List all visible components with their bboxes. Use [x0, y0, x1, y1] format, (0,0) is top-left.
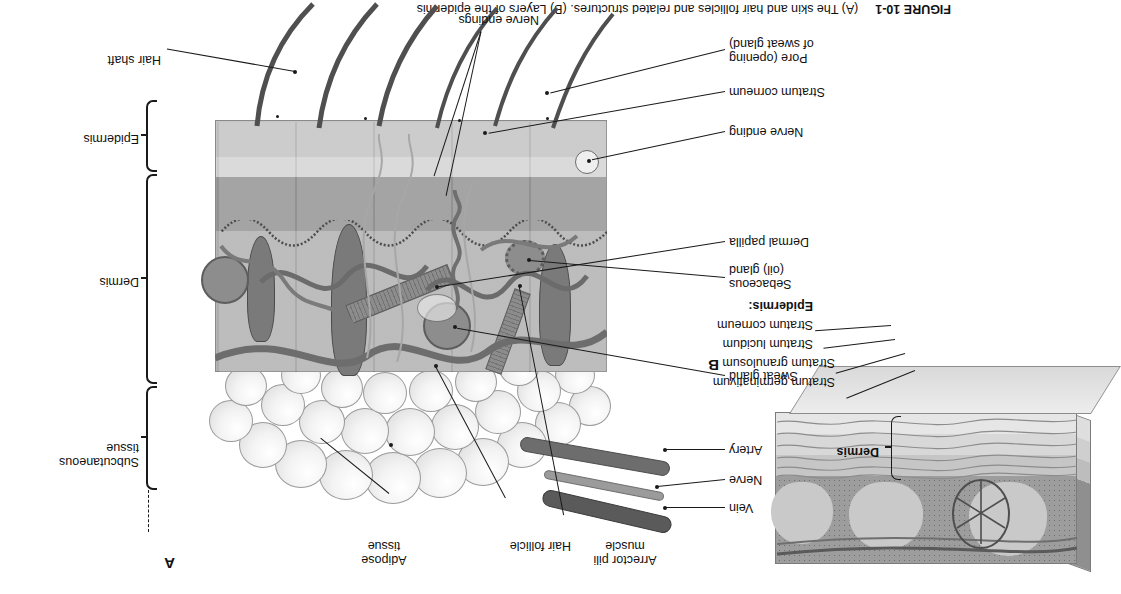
- bracket-dermis-b: [891, 416, 901, 480]
- epidermis-cube-bottom-face: [789, 366, 1121, 414]
- leader-nerve-ending: [592, 131, 725, 160]
- panel-b-letter: B: [708, 357, 719, 374]
- nerve-fibres: [217, 132, 517, 362]
- label-epidermis-heading: Epidermis:: [748, 299, 813, 313]
- leader-dot-sweat-gland: [453, 325, 457, 329]
- label-dermis-b: Dermis: [837, 445, 879, 459]
- pore-mark-1: [546, 117, 549, 120]
- bracket-subcutaneous: [146, 386, 157, 490]
- panel-a-skin-block: A: [107, 27, 667, 572]
- leader-dot-nerve-ending: [587, 159, 591, 163]
- label-stratum-lucidum: Stratum lucidum: [723, 337, 813, 351]
- figure-caption-number: FIGURE 10-1: [875, 2, 951, 16]
- leader-stratum-corneum-b: [815, 325, 891, 331]
- epidermis-lamellae: [777, 414, 1077, 480]
- bracket-dermis: [146, 174, 157, 384]
- label-stratum-granulosum: Stratum granulosum: [722, 356, 835, 370]
- label-nerve-ending: Nerve ending: [729, 125, 843, 139]
- label-sebaceous-gland: Sebaceous (oil) gland: [729, 263, 829, 290]
- label-adipose-tissue: Adipose tissue: [347, 539, 421, 566]
- pore-mark-4: [276, 115, 279, 118]
- leader-dot-pore: [545, 91, 549, 95]
- panel-a-letter: A: [164, 555, 175, 572]
- leader-dot-hair-follicle: [434, 364, 438, 368]
- bracket-epidermis: [146, 100, 157, 172]
- label-dermis-bracket: Dermis: [99, 275, 139, 289]
- subcutaneous-dash-guide: [148, 490, 149, 532]
- label-pore-opening: Pore (opening of sweat gland): [729, 37, 857, 64]
- pore-mark-3: [364, 117, 367, 120]
- leader-dot-sebaceous: [527, 258, 531, 262]
- leader-dot-dermal-papilla: [435, 285, 439, 289]
- leader-dot-arrector-pili: [518, 284, 522, 288]
- leader-dot-artery: [663, 448, 667, 452]
- label-epidermis-bracket: Epidermis: [83, 132, 139, 146]
- label-arrector-pili-muscle: Arrector pili muscle: [577, 539, 673, 566]
- panel-b-epidermis-block: B: [671, 334, 1091, 564]
- label-stratum-corneum: Stratum corneum: [729, 85, 857, 99]
- label-dermal-papilla: Dermal papilla: [729, 235, 843, 249]
- label-stratum-germinativum: Stratum germinativum: [713, 375, 835, 389]
- leader-dot-vein: [663, 506, 667, 510]
- subcutaneous-adipose-layer: [207, 362, 617, 512]
- leader-dot-stratum-corneum: [483, 131, 487, 135]
- leader-dot-nerve: [655, 485, 659, 489]
- label-subcutaneous-tissue: Subcutaneous tissue: [43, 441, 139, 468]
- label-hair-follicle: Hair follicle: [510, 539, 571, 553]
- label-nerve-endings: Nerve endings: [458, 13, 539, 27]
- leader-stratum-lucidum: [823, 339, 895, 349]
- leader-dot-adipose: [389, 443, 393, 447]
- papillary-capillary-loop: [777, 474, 1077, 564]
- leader-dot-hair-shaft: [293, 70, 297, 74]
- label-stratum-corneum-b: Stratum corneum: [717, 318, 813, 332]
- label-hair-shaft: Hair shaft: [108, 53, 162, 67]
